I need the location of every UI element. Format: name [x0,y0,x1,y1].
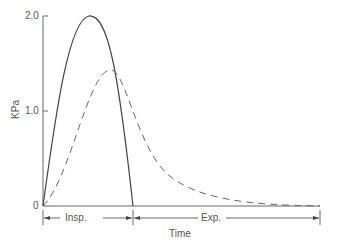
y-tick-label-0: 0 [33,200,39,211]
y-axis-label: KPa [10,100,21,119]
insp-arrowhead-left [44,216,50,220]
dashed-curve [43,70,320,206]
x-axis-label: Time [169,228,191,239]
solid-curve [43,16,133,206]
insp-label: Insp. [65,212,87,223]
chart-canvas [0,0,337,249]
y-tick-label-1: 1.0 [25,105,39,116]
y-tick-label-2: 2.0 [25,10,39,21]
insp-arrowhead-right [126,216,132,220]
exp-arrowhead-left [134,216,140,220]
exp-arrowhead-right [313,216,319,220]
exp-label: Exp. [201,212,221,223]
